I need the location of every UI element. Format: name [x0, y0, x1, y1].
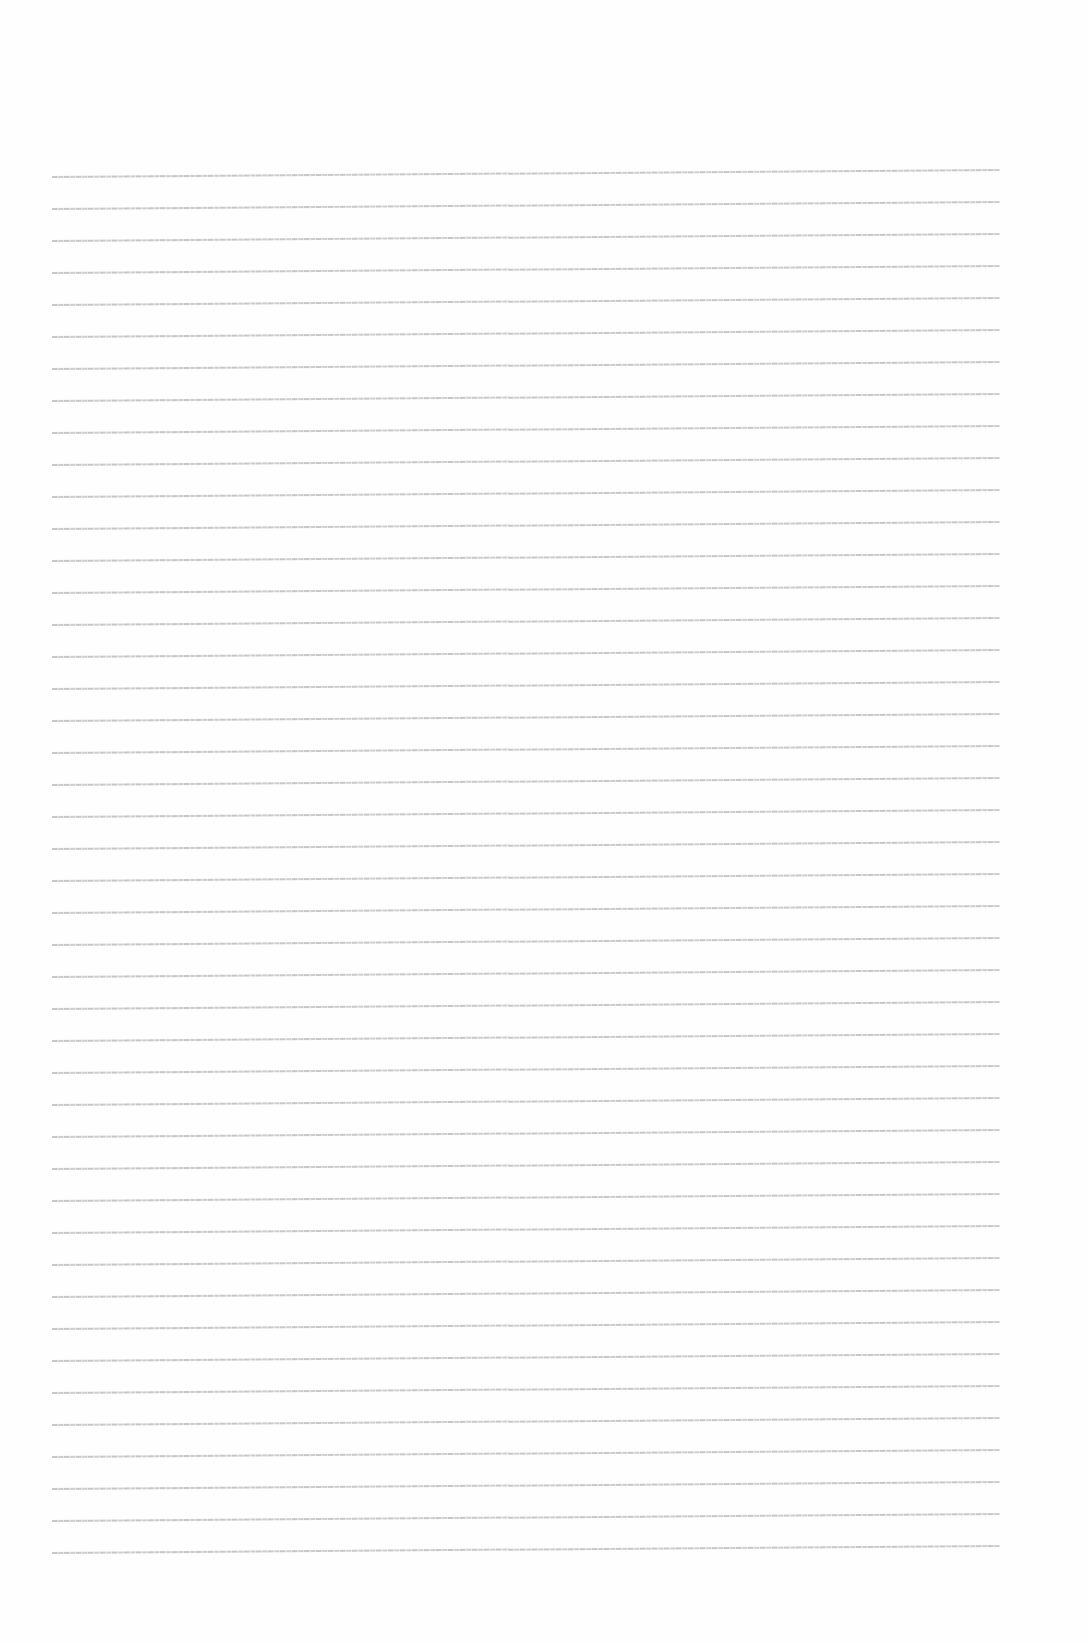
ruled-line [52, 1065, 1000, 1074]
ruled-line [52, 649, 1000, 658]
ruled-line [52, 297, 1000, 306]
ruled-line [52, 169, 1000, 178]
ruled-line [52, 905, 1000, 914]
ruled-line [52, 521, 1000, 530]
ruled-line [52, 873, 1000, 882]
lined-paper-page [0, 0, 1089, 1644]
ruled-line [52, 1129, 1000, 1138]
ruled-line [52, 361, 1000, 370]
ruled-line [52, 265, 1000, 274]
ruled-line [52, 1257, 1000, 1266]
ruled-line [52, 1161, 1000, 1170]
ruled-line [52, 777, 1000, 786]
ruled-line [52, 1001, 1000, 1010]
ruled-line [52, 201, 1000, 210]
ruled-line [52, 1097, 1000, 1106]
ruled-line [52, 1449, 1000, 1458]
ruled-line [52, 1481, 1000, 1490]
ruled-line [52, 1193, 1000, 1202]
ruled-line [52, 745, 1000, 754]
ruled-line [52, 233, 1000, 242]
ruled-line [52, 809, 1000, 818]
ruled-line [52, 1513, 1000, 1522]
ruled-line [52, 1385, 1000, 1394]
ruled-line [52, 425, 1000, 434]
ruled-line [52, 841, 1000, 850]
ruled-lines-container [52, 0, 1000, 1644]
ruled-line [52, 457, 1000, 466]
ruled-line [52, 393, 1000, 402]
ruled-line [52, 1321, 1000, 1330]
ruled-line [52, 1417, 1000, 1426]
ruled-line [52, 585, 1000, 594]
ruled-line [52, 681, 1000, 690]
ruled-line [52, 617, 1000, 626]
ruled-line [52, 1353, 1000, 1362]
ruled-line [52, 489, 1000, 498]
ruled-line [52, 969, 1000, 978]
ruled-line [52, 329, 1000, 338]
ruled-line [52, 1289, 1000, 1298]
ruled-line [52, 1225, 1000, 1234]
ruled-line [52, 937, 1000, 946]
ruled-line [52, 713, 1000, 722]
ruled-line [52, 1545, 1000, 1554]
ruled-line [52, 1033, 1000, 1042]
ruled-line [52, 553, 1000, 562]
